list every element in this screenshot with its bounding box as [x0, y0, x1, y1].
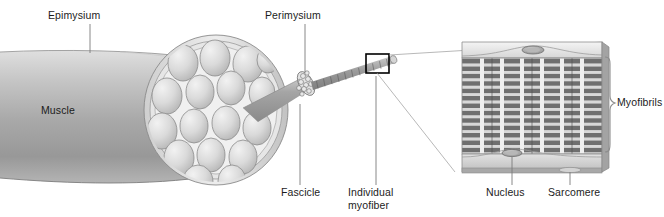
label-myofibrils: Myofibrils: [617, 96, 662, 109]
myofiber-magnified-panel: [462, 42, 609, 173]
label-perimysium: Perimysium: [265, 9, 321, 22]
diagram-canvas: [0, 0, 664, 217]
label-epimysium: Epimysium: [48, 9, 100, 22]
sarcomere-marker: [559, 167, 581, 172]
muscle-anatomy-diagram: Epimysium Perimysium Muscle Fascicle Ind…: [0, 0, 664, 217]
label-muscle: Muscle: [41, 104, 75, 117]
label-individual-myofiber: Individual myofiber: [348, 186, 393, 211]
label-nucleus: Nucleus: [486, 186, 525, 199]
label-myofiber-line1: Individual: [348, 186, 393, 199]
label-sarcomere: Sarcomere: [548, 186, 600, 199]
label-myofiber-line2: myofiber: [348, 199, 393, 212]
sarcolemma-top: [462, 42, 602, 58]
label-fascicle: Fascicle: [281, 186, 320, 199]
myofibril-field: [462, 58, 602, 155]
